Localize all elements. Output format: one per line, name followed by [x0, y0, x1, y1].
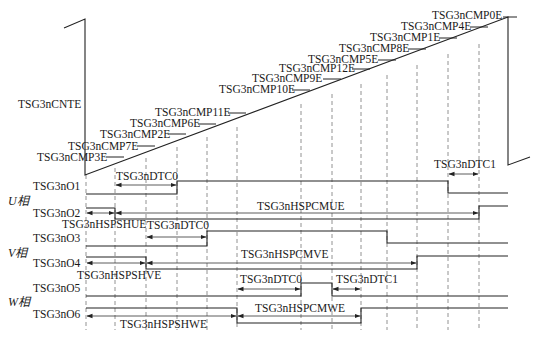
- dtc0-w-label: TSG3nDTC0: [240, 273, 302, 285]
- cmp-label: TSG3nCMP5E: [308, 53, 378, 65]
- cmp-label: TSG3nCMP1E: [370, 31, 440, 43]
- signal-o1-label: TSG3nO1: [33, 180, 81, 192]
- hspcmue-label: TSG3nHSPCMUE: [257, 200, 345, 212]
- cmp-label: TSG3nCMP7E: [68, 140, 138, 152]
- hspshwe-label: TSG3nHSPSHWE: [120, 318, 207, 330]
- cmp-label: TSG3nCMP8E: [339, 42, 409, 54]
- hspshue-label: TSG3nHSPSHUE: [62, 218, 146, 230]
- cmp-label: TSG3nCMP0E: [432, 9, 502, 21]
- hspcmve-label: TSG3nHSPCMVE: [241, 248, 329, 260]
- cmp-label: TSG3nCMP11E: [155, 106, 231, 118]
- cmp-label: TSG3nCMP2E: [100, 128, 170, 140]
- dtc1-u-label: TSG3nDTC1: [434, 158, 496, 170]
- signal-o5-label: TSG3nO5: [33, 282, 81, 294]
- dtc0-u-label: TSG3nDTC0: [116, 170, 178, 182]
- cmp-label: TSG3nCMP4E: [401, 20, 471, 32]
- signal-o6-label: TSG3nO6: [33, 308, 81, 320]
- phase-u-label: U相: [8, 194, 31, 208]
- cmp-label: TSG3nCMP6E: [130, 117, 200, 129]
- hspshve-label: TSG3nHSPSHVE: [77, 269, 161, 281]
- phase-v-label: V相: [8, 246, 29, 260]
- cmp-label: TSG3nCMP10E: [219, 83, 295, 95]
- counter-label: TSG3nCNTE: [18, 98, 81, 110]
- wave-o1: [86, 181, 508, 194]
- phase-w-label: W相: [8, 295, 32, 309]
- cmp-label: TSG3nCMP3E: [37, 151, 107, 163]
- compare-events: TSG3nCMP3E TSG3nCMP7E TSG3nCMP2E TSG3nCM…: [37, 9, 517, 163]
- wave-o3: [86, 231, 508, 246]
- timing-diagram: TSG3nCNTE TSG3nCMP3E TSG3nCMP7E TSG3nCMP…: [0, 0, 533, 339]
- hspcmwe-label: TSG3nHSPCMWE: [255, 302, 345, 314]
- signal-o3-label: TSG3nO3: [33, 232, 81, 244]
- signal-o4-label: TSG3nO4: [33, 257, 81, 269]
- dtc1-w-label: TSG3nDTC1: [336, 273, 398, 285]
- dtc0-v-label: TSG3nDTC0: [147, 219, 209, 231]
